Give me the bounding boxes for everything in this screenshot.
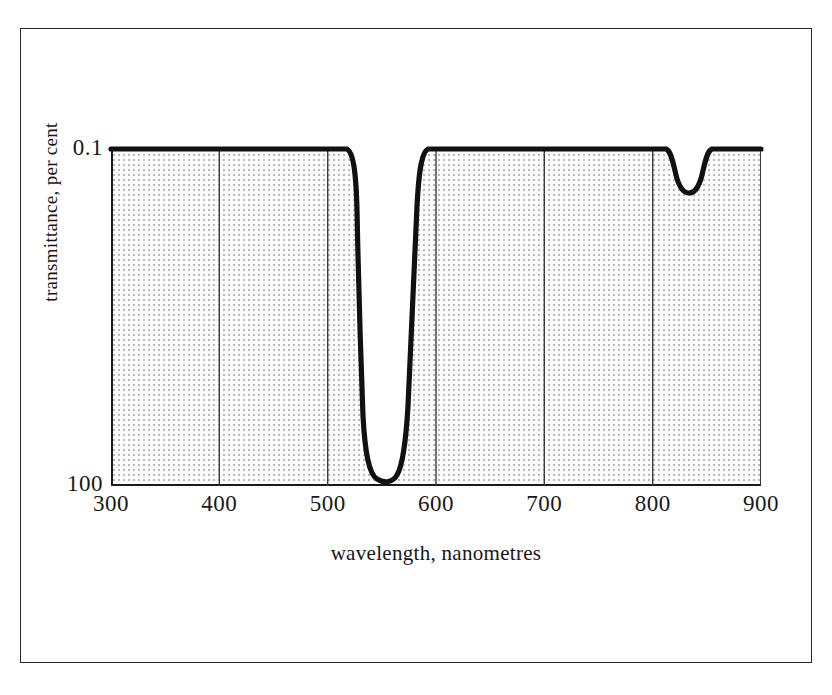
x-tick-300: 300 (93, 491, 129, 517)
figure-frame: 0.1 100 300 400 500 600 700 800 900 wave… (20, 28, 812, 663)
y-axis-title-wrapper: transmittance, per cent (40, 62, 66, 362)
y-axis-title: transmittance, per cent (40, 122, 61, 301)
transmittance-spectrum-chart: 0.1 100 300 400 500 600 700 800 900 wave… (21, 29, 813, 664)
x-axis-title: wavelength, nanometres (111, 541, 761, 566)
x-axis-tick-labels: 300 400 500 600 700 800 900 (111, 491, 761, 525)
plot-svg (111, 148, 761, 486)
x-tick-900: 900 (743, 491, 779, 517)
x-tick-400: 400 (201, 491, 237, 517)
x-tick-800: 800 (635, 491, 671, 517)
gridlines (219, 148, 652, 486)
x-tick-600: 600 (418, 491, 454, 517)
x-tick-500: 500 (310, 491, 346, 517)
x-tick-700: 700 (526, 491, 562, 517)
